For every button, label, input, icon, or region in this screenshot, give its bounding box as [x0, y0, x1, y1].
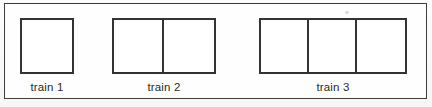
train-label-1: train 1 — [20, 80, 74, 94]
train-group-2: train 2 — [112, 18, 216, 94]
figure-canvas: train 1 train 2 train 3 — [0, 0, 432, 107]
train-label-3: train 3 — [259, 80, 407, 94]
train-car — [22, 20, 72, 72]
train-car — [261, 20, 309, 72]
train-cars-2 — [112, 18, 216, 74]
train-group-1: train 1 — [20, 18, 74, 94]
train-car — [164, 20, 214, 72]
train-car — [114, 20, 164, 72]
train-car — [357, 20, 405, 72]
train-cars-3 — [259, 18, 407, 74]
train-group-3: train 3 — [259, 18, 407, 94]
train-cars-1 — [20, 18, 74, 74]
train-label-2: train 2 — [112, 80, 216, 94]
train-car — [309, 20, 357, 72]
figure-border: train 1 train 2 train 3 — [4, 3, 427, 99]
